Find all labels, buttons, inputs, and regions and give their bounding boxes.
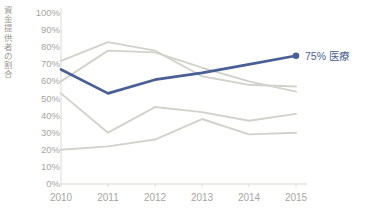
x-axis-tick-label: 2010 xyxy=(41,193,81,203)
series-lines xyxy=(61,42,296,150)
axis-lines xyxy=(61,8,307,187)
series-end-markers xyxy=(293,52,300,59)
x-axis-tick-label: 2011 xyxy=(88,193,128,203)
x-axis-tick-label: 2012 xyxy=(135,193,175,203)
series-line xyxy=(61,93,296,132)
series-line xyxy=(61,56,296,94)
series-line xyxy=(61,42,296,86)
line-chart: 資金提供者の割合 0%10%20%30%40%50%60%70%80%90%10… xyxy=(0,0,365,218)
series-end-marker xyxy=(293,52,300,59)
x-axis-tick-label: 2014 xyxy=(229,193,269,203)
x-axis-tick-label: 2013 xyxy=(182,193,222,203)
plot-area xyxy=(0,0,365,218)
x-axis-tick-label: 2015 xyxy=(276,193,316,203)
series-end-label: 75% 医療 xyxy=(305,51,349,62)
